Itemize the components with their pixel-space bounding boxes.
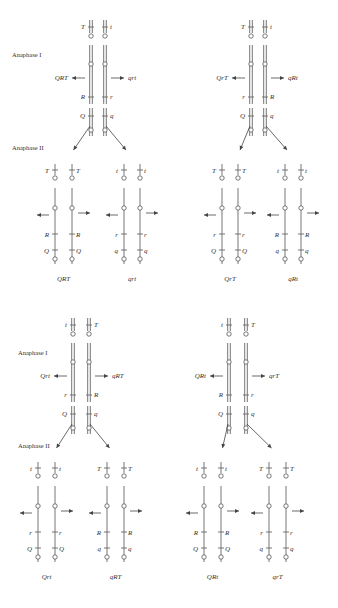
movement-arrow-right-head — [104, 374, 108, 378]
gamete-genotype: Qrt — [42, 573, 53, 581]
allele-label-t: t — [305, 167, 308, 175]
stage-label-anaphase-1: Anaphase I — [18, 349, 47, 356]
allele-label-t: t — [110, 23, 113, 31]
allele-label-t: t — [59, 465, 62, 473]
centromere — [283, 176, 287, 180]
gamete-genotype: qRt — [288, 275, 299, 283]
centromere — [103, 128, 107, 132]
division-arrow-right — [106, 126, 126, 150]
allele-label-r: r — [64, 391, 67, 399]
allele-label-r: R — [127, 529, 133, 537]
movement-arrow-right-head — [261, 374, 265, 378]
allele-label-t: t — [196, 465, 199, 473]
centromere — [36, 555, 40, 559]
segregation-arrow-left-head — [37, 213, 41, 217]
movement-arrow-left-head — [210, 374, 214, 378]
segregation-arrow-right-head — [138, 509, 142, 513]
allele-label-r: r — [115, 231, 118, 239]
centromere — [299, 176, 303, 180]
allele-label-t: T — [212, 167, 217, 175]
segregation-arrow-left-head — [267, 213, 271, 217]
centromere — [53, 474, 57, 478]
centromere — [236, 257, 240, 261]
allele-label-q: Q — [44, 247, 49, 255]
anaphase2-cell: trqtrqqrt — [106, 164, 158, 283]
centromere — [202, 474, 206, 478]
gamete-genotype: qRT — [110, 573, 123, 581]
allele-label-t: T — [241, 23, 246, 31]
anaphase2-cell: trQtrQQrt — [20, 462, 73, 581]
gamete-genotype: qrT — [272, 573, 283, 581]
allele-label-q: Q — [240, 112, 245, 120]
gamete-genotype: qrt — [128, 275, 137, 283]
allele-label-t: T — [76, 167, 81, 175]
allele-label-t: t — [277, 167, 280, 175]
stage-label-anaphase-2: Anaphase II — [18, 442, 50, 449]
centromere — [89, 128, 93, 132]
division-arrow-right — [266, 126, 287, 150]
segregation-arrow-right-head — [69, 509, 73, 513]
allele-label-q: Q — [211, 247, 216, 255]
segregation-arrow-left-head — [106, 213, 110, 217]
segregation-arrow-left-head — [186, 511, 190, 515]
allele-label-r: R — [269, 93, 275, 101]
meiosis-diagram: Anaphase IAnaphase IITRQtrqQRTqrtTRQTRQQ… — [0, 0, 338, 608]
centromere — [299, 257, 303, 261]
allele-label-t: T — [45, 167, 50, 175]
allele-label-r: r — [110, 93, 113, 101]
anaphase2-cell: TRqTRqqRT — [89, 462, 142, 581]
allele-label-t: T — [97, 465, 102, 473]
centromere — [267, 504, 271, 508]
panel-top-left: Anaphase IAnaphase IITRQtrqQRTqrtTRQTRQQ… — [12, 20, 158, 283]
segregation-arrow-right-head — [300, 509, 304, 513]
allele-label-q: Q — [59, 545, 64, 553]
centromere — [236, 176, 240, 180]
centromere — [87, 426, 91, 430]
allele-label-r: R — [304, 231, 310, 239]
segregation-arrow-left-head — [251, 511, 255, 515]
allele-label-t: T — [81, 23, 86, 31]
allele-label-t: t — [144, 167, 147, 175]
product-genotype-right: qrt — [128, 74, 137, 82]
allele-label-r: R — [274, 231, 280, 239]
centromere — [249, 62, 253, 66]
centromere — [70, 176, 74, 180]
allele-label-q: q — [260, 545, 264, 553]
centromere — [283, 257, 287, 261]
centromere — [103, 62, 107, 66]
centromere — [122, 474, 126, 478]
segregation-arrow-left-head — [89, 511, 93, 515]
centromere — [122, 257, 126, 261]
movement-arrow-right-head — [120, 76, 124, 80]
allele-label-r: r — [242, 93, 245, 101]
centromere — [202, 504, 206, 508]
allele-label-q: q — [144, 247, 148, 255]
division-arrow-left-head — [57, 444, 61, 448]
centromere — [36, 504, 40, 508]
centromere — [283, 206, 287, 210]
allele-label-q: q — [128, 545, 132, 553]
allele-label-r: R — [44, 231, 50, 239]
product-genotype-left: QRT — [55, 74, 69, 82]
product-genotype-left: Qrt — [40, 372, 51, 380]
allele-label-q: Q — [27, 545, 32, 553]
allele-label-q: q — [276, 247, 280, 255]
allele-label-q: q — [290, 545, 294, 553]
centromere — [249, 128, 253, 132]
allele-label-r: r — [260, 529, 263, 537]
centromere — [244, 360, 248, 364]
movement-arrow-right-head — [280, 76, 284, 80]
anaphase2-cell: TrqTrqqrT — [251, 462, 304, 581]
centromere — [299, 206, 303, 210]
centromere — [202, 555, 206, 559]
allele-label-r: r — [290, 529, 293, 537]
segregation-arrow-right-head — [86, 211, 90, 215]
allele-label-t: t — [30, 465, 33, 473]
centromere — [122, 555, 126, 559]
allele-label-q: Q — [193, 545, 198, 553]
allele-label-q: q — [115, 247, 119, 255]
allele-label-t: T — [242, 167, 247, 175]
allele-label-r: R — [80, 93, 86, 101]
allele-label-r: r — [59, 529, 62, 537]
allele-label-t: T — [259, 465, 264, 473]
